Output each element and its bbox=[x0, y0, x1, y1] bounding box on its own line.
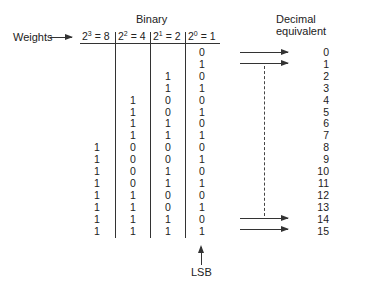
weights-arrow-icon bbox=[50, 37, 72, 38]
bit-cell: 0 bbox=[126, 141, 140, 153]
bit-cell: 1 bbox=[126, 129, 140, 141]
bit-cell: 1 bbox=[161, 177, 175, 189]
weight-header-3: 20 = 1 bbox=[188, 30, 216, 42]
arrow-row-1-icon bbox=[240, 63, 288, 64]
bit-cell: 1 bbox=[90, 141, 104, 153]
bit-cell: 1 bbox=[195, 201, 209, 213]
bit-cell: 0 bbox=[195, 165, 209, 177]
bit-cell: 1 bbox=[126, 94, 140, 106]
lsb-label: LSB bbox=[191, 266, 212, 278]
decimal-value: 4 bbox=[305, 94, 329, 106]
decimal-value: 9 bbox=[305, 153, 329, 165]
bit-cell: 0 bbox=[161, 153, 175, 165]
bit-cell: 0 bbox=[195, 213, 209, 225]
bit-cell: 1 bbox=[195, 129, 209, 141]
bit-cell: 1 bbox=[161, 225, 175, 237]
bit-cell: 0 bbox=[195, 189, 209, 201]
decimal-value: 6 bbox=[305, 117, 329, 129]
bit-cell: 1 bbox=[126, 189, 140, 201]
bit-cell: 1 bbox=[126, 106, 140, 118]
decimal-title: Decimal equivalent bbox=[276, 13, 366, 37]
decimal-value: 5 bbox=[305, 106, 329, 118]
bit-cell: 0 bbox=[161, 189, 175, 201]
weight-header-0: 23 = 8 bbox=[82, 30, 110, 42]
column-divider bbox=[115, 32, 116, 238]
bit-cell: 1 bbox=[195, 58, 209, 70]
bit-cell: 0 bbox=[195, 70, 209, 82]
dashed-continuation-line bbox=[264, 66, 265, 216]
bit-cell: 1 bbox=[90, 201, 104, 213]
bit-cell: 1 bbox=[90, 165, 104, 177]
decimal-value: 12 bbox=[305, 189, 329, 201]
bit-cell: 0 bbox=[195, 117, 209, 129]
bit-cell: 0 bbox=[161, 106, 175, 118]
bit-cell: 1 bbox=[90, 225, 104, 237]
bit-cell: 1 bbox=[161, 213, 175, 225]
decimal-value: 0 bbox=[305, 46, 329, 58]
bit-cell: 1 bbox=[195, 153, 209, 165]
bit-cell: 0 bbox=[161, 94, 175, 106]
bit-cell: 1 bbox=[90, 213, 104, 225]
bit-cell: 1 bbox=[195, 225, 209, 237]
decimal-value: 14 bbox=[305, 213, 329, 225]
bit-cell: 1 bbox=[195, 177, 209, 189]
bit-cell: 0 bbox=[161, 201, 175, 213]
bit-cell: 1 bbox=[161, 165, 175, 177]
arrow-row-15-icon bbox=[240, 229, 288, 230]
bit-cell: 0 bbox=[195, 46, 209, 58]
binary-title: Binary bbox=[136, 13, 167, 25]
decimal-value: 10 bbox=[305, 165, 329, 177]
bit-cell: 1 bbox=[126, 225, 140, 237]
decimal-value: 3 bbox=[305, 82, 329, 94]
bit-cell: 0 bbox=[126, 153, 140, 165]
bit-cell: 1 bbox=[90, 153, 104, 165]
bit-cell: 0 bbox=[195, 141, 209, 153]
decimal-value: 13 bbox=[305, 201, 329, 213]
bit-cell: 1 bbox=[161, 70, 175, 82]
bit-cell: 0 bbox=[126, 177, 140, 189]
arrow-row-14-icon bbox=[240, 218, 288, 219]
decimal-value: 11 bbox=[305, 177, 329, 189]
bit-cell: 1 bbox=[161, 129, 175, 141]
weights-label: Weights bbox=[13, 31, 53, 43]
bit-cell: 0 bbox=[195, 94, 209, 106]
bit-cell: 0 bbox=[161, 141, 175, 153]
bit-cell: 1 bbox=[126, 213, 140, 225]
column-divider bbox=[150, 32, 151, 238]
column-divider bbox=[185, 32, 186, 238]
bit-cell: 1 bbox=[161, 82, 175, 94]
bit-cell: 1 bbox=[161, 117, 175, 129]
bit-cell: 1 bbox=[90, 177, 104, 189]
decimal-value: 2 bbox=[305, 70, 329, 82]
bit-cell: 0 bbox=[126, 165, 140, 177]
decimal-value: 7 bbox=[305, 129, 329, 141]
decimal-value: 1 bbox=[305, 58, 329, 70]
bit-cell: 1 bbox=[126, 117, 140, 129]
weight-header-1: 22 = 4 bbox=[118, 30, 146, 42]
decimal-value: 8 bbox=[305, 141, 329, 153]
bit-cell: 1 bbox=[195, 82, 209, 94]
bit-cell: 1 bbox=[90, 189, 104, 201]
weight-header-2: 21 = 2 bbox=[153, 30, 181, 42]
bit-cell: 1 bbox=[126, 201, 140, 213]
arrow-row-0-icon bbox=[240, 52, 288, 53]
decimal-value: 15 bbox=[305, 225, 329, 237]
lsb-arrow-icon bbox=[201, 247, 202, 265]
bit-cell: 1 bbox=[195, 106, 209, 118]
